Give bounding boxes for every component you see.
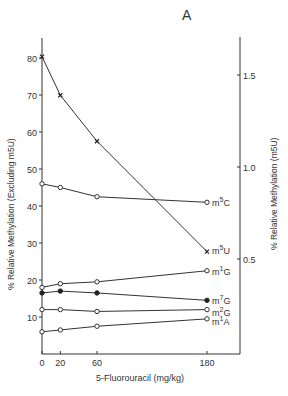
series-label-m5U: m5U [212,244,230,256]
filled-marker [95,291,99,295]
series-line-m1G [42,271,207,288]
y-right-tick-label: 1.5 [243,71,256,81]
series-label-m1G: m1G [212,265,230,277]
open-marker [95,280,99,284]
open-marker [40,307,44,311]
y-left-tick-label: 60 [27,128,37,138]
x-axis-title: 5-Fluorouracil (mg/kg) [96,373,184,383]
filled-marker [40,291,44,295]
cross-marker [58,93,62,97]
x-tick-label: 20 [55,358,65,368]
y-left-tick-label: 50 [27,165,37,175]
open-marker [205,269,209,273]
open-marker [205,307,209,311]
y-axis-left-title: % Relative Methylation (Excluding m5U) [6,138,16,290]
panel-label: A [182,7,192,23]
open-marker [95,195,99,199]
filled-marker [205,298,209,302]
cross-marker [205,250,209,254]
line-chart: 10203040506070800.51.01.502060180 m5Um5C… [0,0,288,396]
open-marker [95,324,99,328]
series-line-m1A [42,319,207,332]
y-axis-right-title: % Relative Methylation (m5U) [269,137,279,250]
x-tick-label: 180 [199,358,214,368]
series-line-m7G [42,291,207,300]
y-left-tick-label: 40 [27,202,37,212]
open-marker [58,307,62,311]
filled-marker [58,289,62,293]
y-left-tick-label: 80 [27,54,37,64]
series-line-m5C [42,184,207,203]
x-tick-label: 60 [92,358,102,368]
open-marker [58,328,62,332]
series-group [40,55,209,334]
y-left-tick-label: 10 [27,313,37,323]
series-label-m1A: m1A [212,315,229,327]
series-labels: m5Um5Cm1Gm7Gm2Gm1A [212,196,230,327]
series-label-m5C: m5C [212,196,230,208]
open-marker [95,309,99,313]
open-marker [40,330,44,334]
open-marker [40,285,44,289]
series-line-m5U [42,57,207,252]
series-line-m2G [42,310,207,312]
open-marker [205,200,209,204]
y-left-tick-label: 30 [27,239,37,249]
x-tick-label: 0 [39,358,44,368]
series-label-m7G: m7G [212,294,230,306]
open-marker [205,317,209,321]
y-right-tick-label: 1.0 [243,163,256,173]
open-marker [58,282,62,286]
y-left-tick-label: 20 [27,276,37,286]
cross-marker [95,139,99,143]
y-left-tick-label: 70 [27,91,37,101]
open-marker [40,182,44,186]
open-marker [58,185,62,189]
y-right-tick-label: 0.5 [243,255,256,265]
